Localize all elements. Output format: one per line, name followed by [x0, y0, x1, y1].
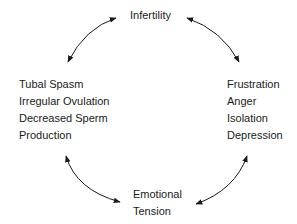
- arrow-right-bottom: [196, 156, 247, 204]
- arrow-top-right: [187, 18, 239, 62]
- node-infertility: Infertility: [130, 7, 171, 24]
- node-emotional-effects: Frustration Anger Isolation Depression: [227, 76, 283, 144]
- node-emotional-tension: Emotional Tension: [133, 186, 182, 220]
- arrow-top-left: [68, 18, 116, 62]
- arrow-left-bottom: [66, 156, 120, 202]
- node-physical-causes: Tubal Spasm Irregular Ovulation Decrease…: [19, 76, 110, 144]
